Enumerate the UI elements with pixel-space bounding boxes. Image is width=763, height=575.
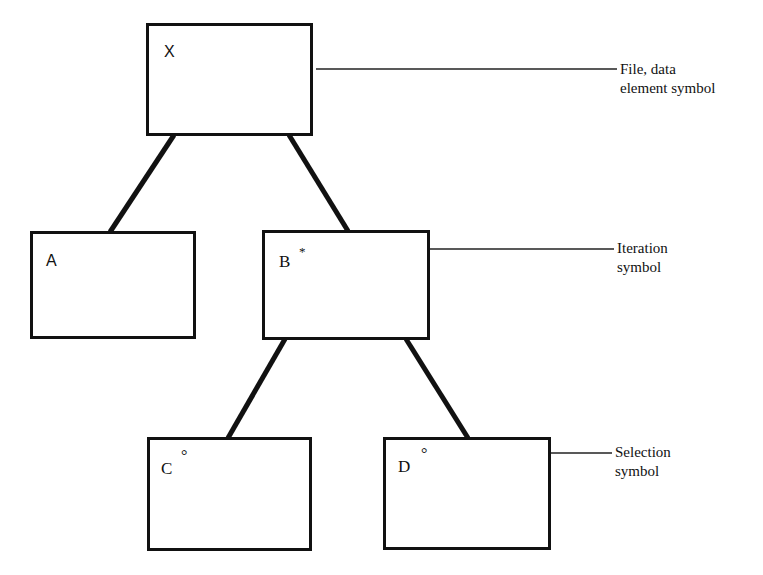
edge-x-a	[110, 135, 174, 232]
edge-b-d	[406, 339, 468, 438]
annotation-selection-line2: symbol	[615, 462, 671, 481]
edge-x-b	[289, 135, 348, 231]
selection-marker-c: °	[181, 448, 187, 464]
annotation-iteration: Iteration symbol	[617, 239, 668, 277]
node-c-box	[147, 437, 312, 551]
node-d-box	[383, 437, 551, 550]
node-a-label: A	[46, 253, 57, 269]
iteration-marker: *	[299, 245, 306, 258]
annotation-iteration-line1: Iteration	[617, 239, 668, 258]
edge-b-c	[228, 339, 285, 438]
annotation-file-line2: element symbol	[620, 79, 715, 98]
annotation-file-line1: File, data	[620, 60, 715, 79]
node-x-label: X	[164, 44, 175, 60]
annotation-selection: Selection symbol	[615, 443, 671, 481]
node-b-label: B	[279, 253, 290, 270]
node-d-label: D	[398, 458, 410, 475]
node-a-box	[30, 231, 196, 339]
annotation-iteration-line2: symbol	[617, 258, 668, 277]
annotation-file-element: File, data element symbol	[620, 60, 715, 98]
node-b-box	[262, 230, 430, 340]
node-x-box	[146, 23, 313, 136]
selection-marker-d: °	[421, 446, 427, 462]
annotation-selection-line1: Selection	[615, 443, 671, 462]
node-c-label: C	[161, 460, 172, 477]
